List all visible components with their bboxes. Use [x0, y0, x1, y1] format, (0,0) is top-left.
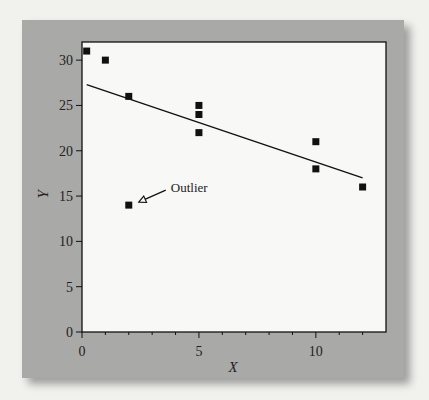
scatter-chart: Outlier 0510 051015202530 X Y	[0, 0, 429, 400]
y-tick-label: 5	[66, 280, 73, 295]
x-axis: 0510	[79, 332, 363, 359]
y-tick-label: 25	[59, 98, 73, 113]
y-tick-label: 0	[66, 325, 73, 340]
data-point-marker	[359, 184, 366, 191]
y-tick-label: 15	[59, 189, 73, 204]
data-point-marker	[195, 102, 202, 109]
annotation-label: Outlier	[171, 180, 208, 195]
data-point-marker	[125, 202, 132, 209]
x-tick-label: 0	[79, 344, 86, 359]
y-tick-label: 20	[59, 144, 73, 159]
data-point-marker	[195, 111, 202, 118]
data-point-marker	[195, 129, 202, 136]
data-point-marker	[102, 57, 109, 64]
y-axis-label: Y	[35, 188, 51, 198]
plot-area	[82, 42, 386, 332]
data-point-marker	[125, 93, 132, 100]
x-axis-label: X	[227, 359, 238, 375]
data-point-marker	[312, 138, 319, 145]
x-tick-label: 5	[195, 344, 202, 359]
y-tick-label: 10	[59, 234, 73, 249]
data-point-marker	[83, 48, 90, 55]
y-axis: 051015202530	[59, 53, 82, 340]
data-point-marker	[312, 165, 319, 172]
y-tick-label: 30	[59, 53, 73, 68]
x-tick-label: 10	[309, 344, 323, 359]
